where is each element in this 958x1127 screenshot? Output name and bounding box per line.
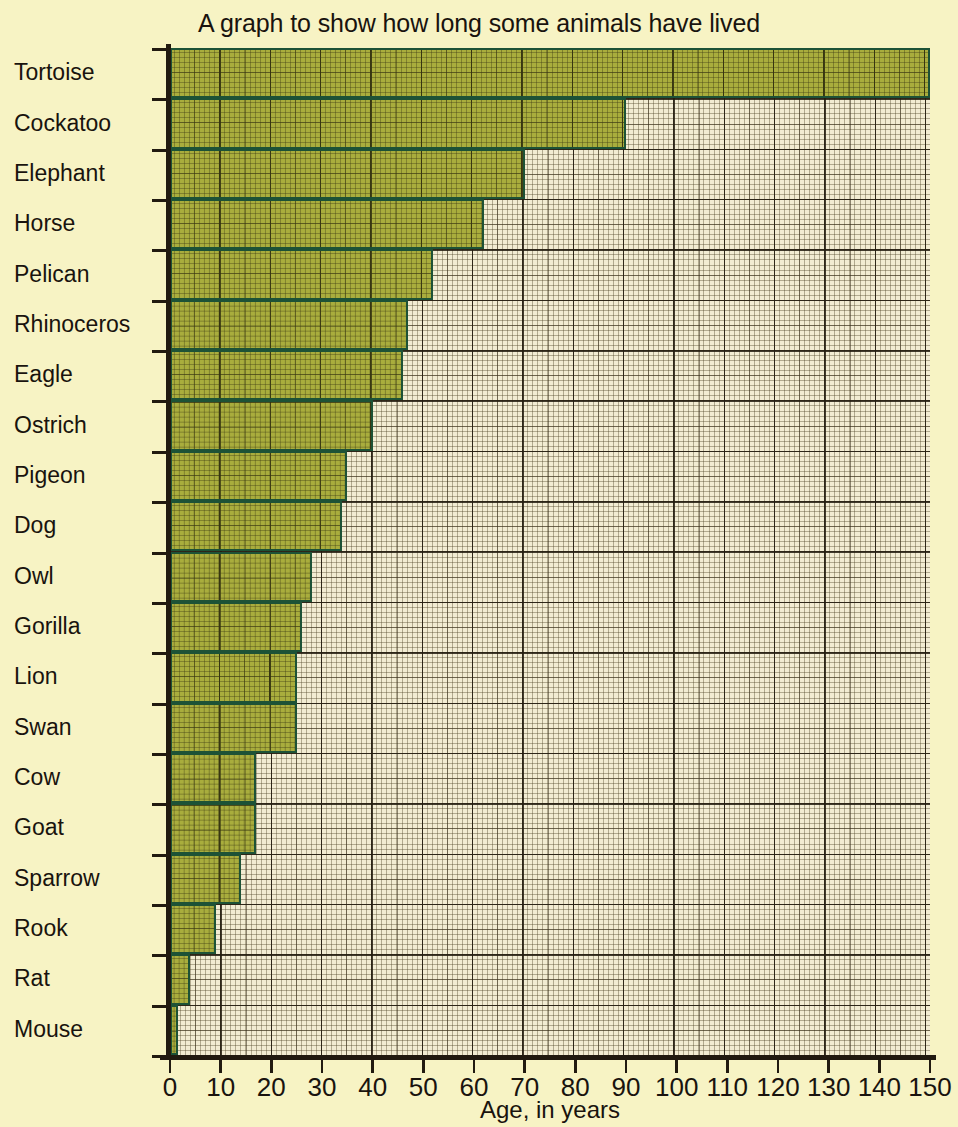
bar-goat <box>170 803 256 853</box>
y-axis-tick <box>152 1005 168 1008</box>
x-axis-line <box>160 1055 936 1060</box>
x-axis-tick <box>726 1058 729 1073</box>
x-axis-tick <box>878 1058 881 1073</box>
y-axis-label-lion: Lion <box>14 663 154 690</box>
bar-swan <box>170 703 297 753</box>
y-axis-tick <box>152 703 168 706</box>
bar-grid-overlay <box>170 753 256 803</box>
bar-pelican <box>170 249 433 299</box>
y-axis-label-owl: Owl <box>14 563 154 590</box>
y-axis-tick <box>152 552 168 555</box>
bar-series <box>170 48 930 1055</box>
bar-gorilla <box>170 602 302 652</box>
y-axis-label-swan: Swan <box>14 714 154 741</box>
y-axis-label-goat: Goat <box>14 814 154 841</box>
y-axis-label-gorilla: Gorilla <box>14 613 154 640</box>
bar-grid-overlay <box>170 249 433 299</box>
y-axis-tick <box>152 602 168 605</box>
x-axis-tick <box>523 1058 526 1073</box>
y-axis-label-pelican: Pelican <box>14 261 154 288</box>
bar-grid-overlay <box>170 652 297 702</box>
x-axis-tick <box>929 1058 932 1073</box>
bar-lion <box>170 652 297 702</box>
y-axis-tick <box>152 954 168 957</box>
bar-grid-overlay <box>170 854 241 904</box>
y-axis-label-ostrich: Ostrich <box>14 412 154 439</box>
bar-cockatoo <box>170 98 626 148</box>
x-axis-tick <box>219 1058 222 1073</box>
y-axis-label-pigeon: Pigeon <box>14 462 154 489</box>
plot-area <box>170 48 930 1055</box>
chart-root: A graph to show how long some animals ha… <box>0 0 958 1127</box>
bar-cow <box>170 753 256 803</box>
bar-tortoise <box>170 48 930 98</box>
y-axis-label-rook: Rook <box>14 915 154 942</box>
bar-dog <box>170 501 342 551</box>
bar-grid-overlay <box>170 602 302 652</box>
y-axis-label-elephant: Elephant <box>14 160 154 187</box>
y-axis-label-rat: Rat <box>14 965 154 992</box>
y-axis-label-dog: Dog <box>14 512 154 539</box>
y-axis-tick <box>152 199 168 202</box>
y-axis-tick <box>152 501 168 504</box>
bar-grid-overlay <box>170 1005 178 1055</box>
y-axis-tick <box>152 803 168 806</box>
y-axis-tick <box>152 451 168 454</box>
y-axis-label-mouse: Mouse <box>14 1016 154 1043</box>
bar-grid-overlay <box>170 300 408 350</box>
bar-grid-overlay <box>170 350 403 400</box>
bar-grid-overlay <box>170 552 312 602</box>
bar-eagle <box>170 350 403 400</box>
y-axis-tick <box>152 854 168 857</box>
bar-horse <box>170 199 484 249</box>
bar-grid-overlay <box>170 803 256 853</box>
bar-grid-overlay <box>170 199 484 249</box>
y-axis-tick <box>152 249 168 252</box>
x-axis-tick <box>827 1058 830 1073</box>
x-axis-tick <box>321 1058 324 1073</box>
bar-grid-overlay <box>170 400 373 450</box>
y-axis-tick <box>152 149 168 152</box>
y-axis-label-cockatoo: Cockatoo <box>14 110 154 137</box>
y-axis-label-eagle: Eagle <box>14 361 154 388</box>
bar-grid-overlay <box>170 48 930 98</box>
y-axis-label-tortoise: Tortoise <box>14 59 154 86</box>
x-axis-tick <box>270 1058 273 1073</box>
bar-grid-overlay <box>170 904 216 954</box>
bar-pigeon <box>170 451 347 501</box>
x-axis-tick <box>625 1058 628 1073</box>
x-axis-tick <box>473 1058 476 1073</box>
bar-grid-overlay <box>170 149 525 199</box>
bar-grid-overlay <box>170 501 342 551</box>
x-axis-tick <box>574 1058 577 1073</box>
bar-grid-overlay <box>170 703 297 753</box>
x-axis-tick <box>675 1058 678 1073</box>
y-axis-tick <box>152 300 168 303</box>
bar-grid-overlay <box>170 451 347 501</box>
x-axis-title: Age, in years <box>170 1096 930 1124</box>
bar-rat <box>170 954 190 1004</box>
chart-title: A graph to show how long some animals ha… <box>0 9 958 38</box>
y-axis-tick <box>152 1055 168 1058</box>
y-axis-label-rhinoceros: Rhinoceros <box>14 311 154 338</box>
bar-ostrich <box>170 400 373 450</box>
bar-rhinoceros <box>170 300 408 350</box>
y-axis-tick <box>152 753 168 756</box>
x-axis-tick <box>422 1058 425 1073</box>
bar-rook <box>170 904 216 954</box>
y-axis-label-sparrow: Sparrow <box>14 865 154 892</box>
y-axis-tick <box>152 350 168 353</box>
bar-grid-overlay <box>170 954 190 1004</box>
y-axis-tick <box>152 652 168 655</box>
x-axis-tick <box>169 1058 172 1073</box>
x-axis-tick <box>371 1058 374 1073</box>
y-axis-label-horse: Horse <box>14 210 154 237</box>
bar-grid-overlay <box>170 98 626 148</box>
y-axis-label-cow: Cow <box>14 764 154 791</box>
y-axis-tick <box>152 48 168 51</box>
bar-elephant <box>170 149 525 199</box>
bar-sparrow <box>170 854 241 904</box>
y-axis-tick <box>152 904 168 907</box>
y-axis-tick <box>152 400 168 403</box>
bar-owl <box>170 552 312 602</box>
